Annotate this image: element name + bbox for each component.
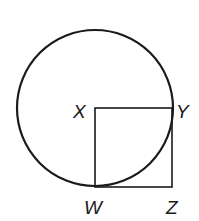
label-z: Z	[165, 197, 179, 218]
label-w: W	[84, 197, 104, 218]
label-x: X	[72, 101, 87, 122]
geometry-diagram: X Y W Z	[0, 0, 199, 221]
label-y: Y	[176, 101, 190, 122]
